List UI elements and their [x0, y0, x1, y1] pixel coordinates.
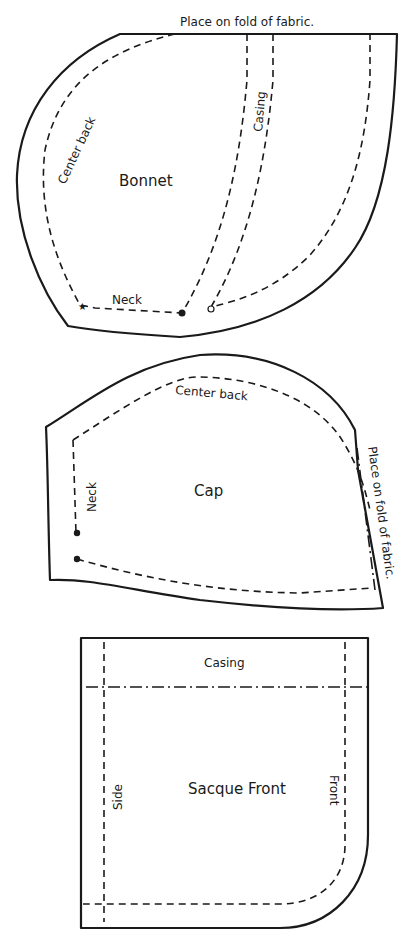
pattern-sheet: Place on fold of fabric. Center back Cas…: [0, 0, 410, 944]
bonnet-piece: Place on fold of fabric. Center back Cas…: [17, 15, 397, 337]
bonnet-casing-label: Casing: [251, 91, 268, 133]
sacque-side-label: Side: [111, 784, 125, 810]
sacque-front-label: Front: [327, 775, 341, 806]
cap-center-back-label: Center back: [175, 383, 249, 403]
sacque-front-title: Sacque Front: [188, 780, 286, 798]
bonnet-fold-label: Place on fold of fabric.: [180, 15, 314, 29]
star-marker-icon: ★: [78, 301, 87, 312]
cap-title: Cap: [194, 482, 223, 500]
open-circle-marker-icon: [208, 306, 214, 312]
sacque-casing-label: Casing: [204, 656, 245, 670]
bonnet-casing-seam-right: [211, 34, 273, 307]
cap-neck-label: Neck: [85, 482, 99, 512]
filled-dot-marker-icon: [179, 310, 186, 317]
bonnet-center-back-label: Center back: [55, 114, 98, 186]
cap-neck-seam: [73, 440, 76, 533]
cap-piece: Center back Neck Cap Place on fold of fa…: [46, 354, 398, 609]
sacque-front-piece: Casing Sacque Front Side Front: [81, 638, 368, 928]
bonnet-cut-line: [17, 34, 397, 337]
cap-filled-dot-upper-icon: [74, 530, 80, 536]
bonnet-casing-seam-left: [182, 34, 247, 313]
bonnet-title: Bonnet: [119, 172, 173, 190]
cap-fold-label: Place on fold of fabric.: [365, 445, 398, 580]
cap-filled-dot-lower-icon: [74, 556, 80, 562]
bonnet-neck-label: Neck: [112, 293, 142, 307]
sacque-front-seam: [83, 642, 345, 904]
